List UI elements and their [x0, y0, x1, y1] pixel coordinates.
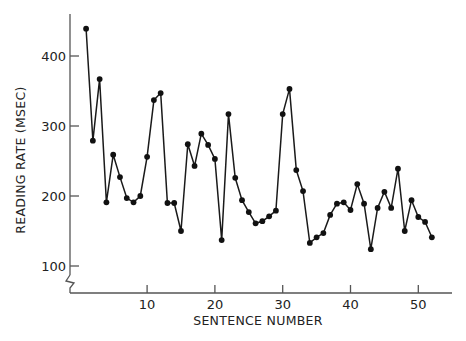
x-tick-label: 10 [139, 297, 156, 312]
data-point-17 [192, 163, 198, 169]
x-axis-title: SENTENCE NUMBER [193, 313, 323, 328]
data-point-28 [266, 213, 272, 219]
data-point-35 [314, 234, 320, 240]
data-point-20 [212, 156, 218, 162]
series-line [86, 29, 432, 250]
data-point-24 [239, 197, 245, 203]
data-point-7 [124, 195, 130, 201]
data-point-45 [382, 189, 388, 195]
data-point-1 [83, 26, 89, 32]
data-point-40 [348, 207, 354, 213]
data-point-30 [280, 111, 286, 117]
data-point-23 [232, 175, 238, 181]
data-point-12 [158, 90, 164, 96]
data-point-2 [90, 138, 96, 144]
data-point-39 [341, 199, 347, 205]
data-point-41 [354, 181, 360, 187]
data-point-46 [388, 205, 394, 211]
x-ticks: 1020304050 [139, 285, 427, 312]
y-ticks: 100200300400 [41, 49, 79, 274]
data-point-38 [334, 201, 340, 207]
data-point-43 [368, 246, 374, 252]
y-axis-break-icon [66, 275, 74, 293]
y-tick-label: 400 [41, 49, 66, 64]
data-point-33 [300, 188, 306, 194]
data-point-3 [97, 76, 103, 82]
data-point-18 [198, 131, 204, 137]
data-point-16 [185, 141, 191, 147]
data-points [83, 26, 435, 252]
data-point-25 [246, 209, 252, 215]
x-tick-label: 30 [274, 297, 291, 312]
y-tick-label: 100 [41, 259, 66, 274]
y-axis-title: READING RATE (MSEC) [13, 86, 28, 234]
data-point-48 [402, 228, 408, 234]
data-point-13 [165, 200, 171, 206]
data-point-52 [429, 234, 435, 240]
data-point-15 [178, 228, 184, 234]
data-point-6 [117, 174, 123, 180]
data-point-44 [375, 205, 381, 211]
data-point-27 [259, 218, 265, 224]
y-tick-label: 300 [41, 119, 66, 134]
data-point-14 [171, 200, 177, 206]
y-tick-label: 200 [41, 189, 66, 204]
data-point-50 [415, 214, 421, 220]
data-point-47 [395, 166, 401, 172]
data-point-21 [219, 237, 225, 243]
data-point-19 [205, 142, 211, 148]
data-point-10 [144, 154, 150, 160]
data-point-5 [110, 152, 116, 158]
data-point-31 [287, 86, 293, 92]
data-point-4 [104, 199, 110, 205]
data-point-49 [409, 197, 415, 203]
x-tick-label: 20 [207, 297, 224, 312]
data-point-51 [422, 219, 428, 225]
data-point-11 [151, 97, 157, 103]
data-point-34 [307, 240, 313, 246]
series-reading-rate [83, 26, 435, 252]
line-chart: 100200300400 1020304050 SENTENCE NUMBER … [0, 0, 466, 341]
data-point-36 [320, 230, 326, 236]
x-tick-label: 40 [342, 297, 359, 312]
data-point-9 [137, 193, 143, 199]
data-point-32 [293, 167, 299, 173]
data-point-8 [131, 199, 137, 205]
data-point-26 [253, 220, 259, 226]
data-point-22 [226, 111, 232, 117]
data-point-37 [327, 212, 333, 218]
x-tick-label: 50 [410, 297, 427, 312]
data-point-29 [273, 208, 279, 214]
data-point-42 [361, 201, 367, 207]
